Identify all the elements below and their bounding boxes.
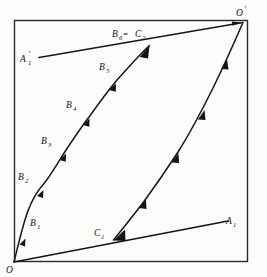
label-c2-letter: C xyxy=(135,29,142,39)
label-b1-subscript: 1 xyxy=(37,223,40,230)
label-b4-letter: B xyxy=(66,100,72,110)
label-b5-letter: B xyxy=(99,62,105,72)
label-c1-subscript: 1 xyxy=(101,233,104,240)
label-b5: B 5 xyxy=(99,62,110,74)
label-origin-prime: O ' xyxy=(236,5,246,18)
curve-right-c1-to-oprime xyxy=(114,24,243,241)
label-equals-sign: = xyxy=(123,29,128,39)
label-origin: O xyxy=(6,265,13,275)
label-b3-subscript: 3 xyxy=(47,141,52,148)
figure-canvas: O O ' A 1 A ' 1 B 1 B 2 B 3 xyxy=(0,0,267,277)
label-b1-letter: B xyxy=(30,218,36,228)
label-b4: B 4 xyxy=(66,100,77,112)
tick-arrow-left-6-terminal xyxy=(140,46,150,59)
label-origin-prime-mark: ' xyxy=(244,5,246,14)
label-a1-prime: A ' 1 xyxy=(19,50,31,66)
label-origin-prime-letter: O xyxy=(236,8,243,18)
curve-left-o-to-b6 xyxy=(14,46,150,263)
label-a1-prime-letter: A xyxy=(19,54,26,64)
label-c1: C 1 xyxy=(94,228,104,240)
label-a1-letter: A xyxy=(225,216,232,226)
diagram-svg: O O ' A 1 A ' 1 B 1 B 2 B 3 xyxy=(0,0,267,277)
label-b3-letter: B xyxy=(41,136,47,146)
ray-o-to-a1 xyxy=(14,221,228,262)
label-a1: A 1 xyxy=(225,216,236,228)
label-b1: B 1 xyxy=(30,218,40,230)
label-b4-subscript: 4 xyxy=(73,105,77,112)
tick-arrow-right-4 xyxy=(222,59,229,70)
label-a1-prime-subscript: 1 xyxy=(28,59,31,66)
label-b2-subscript: 2 xyxy=(25,177,29,184)
label-b6-equals-c2: B 6 = C 2 xyxy=(112,29,146,41)
label-b2: B 2 xyxy=(18,172,29,184)
ray-a1prime-to-oprime xyxy=(39,23,243,58)
label-b3: B 3 xyxy=(41,136,52,148)
tick-arrow-left-1 xyxy=(20,239,26,247)
label-b6-letter: B xyxy=(112,29,118,39)
label-a1-subscript: 1 xyxy=(233,221,236,228)
label-a1-prime-mark: ' xyxy=(29,50,31,59)
tick-arrow-right-1 xyxy=(139,200,147,210)
label-b5-subscript: 5 xyxy=(106,67,110,74)
tick-arrow-right-terminal-c1 xyxy=(114,230,126,242)
label-b2-letter: B xyxy=(18,172,24,182)
label-c1-letter: C xyxy=(94,228,101,238)
tick-arrow-right-2 xyxy=(172,153,180,163)
label-c2-subscript: 2 xyxy=(142,34,146,41)
